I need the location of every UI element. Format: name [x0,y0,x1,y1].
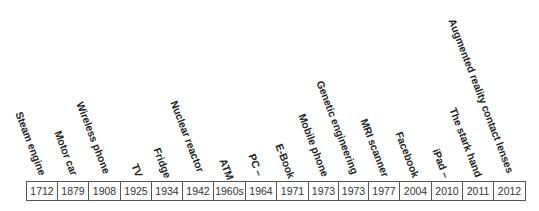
event-label-atm: ATM [217,157,236,182]
year-cell: 1925 [121,182,152,200]
year-cell: 2011 [463,182,494,200]
event-label-tv: TV [129,162,145,179]
event-label-nuclear-reactor: Nuclear reactor [168,99,206,174]
year-cell: 1960s [214,182,246,200]
year-cell: 1942 [183,182,214,200]
year-cell: 1934 [152,182,183,200]
event-label-mri-scanner: MRI scanner [358,117,391,179]
year-cell: 1971 [277,182,309,200]
event-label-motor-car: Motor car [52,129,80,177]
event-label-wireless-phone: Wireless phone [74,100,112,175]
year-cell: 1908 [89,182,121,200]
event-label-stark-hand: The stark hand [447,106,484,179]
year-cell: 1879 [58,182,89,200]
event-label-augmented-reality-contact-lenses: Augmented reality contact lenses [446,17,516,175]
year-cell: 2012 [494,182,525,200]
event-label-facebook: Facebook [393,130,421,179]
year-cell: 2004 [400,182,432,200]
year-cell: 2010 [432,182,463,200]
event-label-fridge: Fridge [151,146,173,180]
year-cell: 1964 [246,182,277,200]
event-label-e-book: E-Book [273,142,297,180]
event-label-pc: PC – [246,152,265,178]
year-cell: 1712 [27,182,58,200]
event-label-ipad: iPad – [430,147,452,180]
year-cell: 1973 [309,182,339,200]
year-cell: 1977 [369,182,400,200]
event-label-steam-engine: Steam engine [13,110,48,177]
event-label-mobile-phone: Mobile phone [296,112,331,178]
year-row: 1712 1879 1908 1925 1934 1942 1960s 1964… [26,181,526,201]
year-cell: 1973 [339,182,369,200]
invention-timeline: Steam engine Motor car Wireless phone TV… [0,0,539,211]
